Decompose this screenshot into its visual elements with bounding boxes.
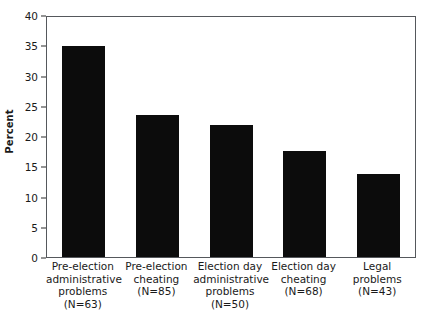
y-axis-tick-label: 30 [25,71,38,83]
y-axis-tick-label: 40 [25,10,38,22]
y-axis-tick-label: 25 [25,101,38,113]
x-axis-category-label-line: administrative [193,273,267,286]
x-axis-category-label: Pre-electionadministrativeproblems(N=63) [46,260,120,310]
y-axis-tick-label: 10 [25,192,38,204]
y-axis-title-text: Percent [4,109,15,153]
x-axis-category-label-line: (N=50) [193,298,267,311]
bar [210,125,253,257]
x-axis-category-label-line: administrative [46,273,120,286]
y-axis-title: Percent [0,0,18,262]
bar [283,151,326,257]
x-axis-category-label-line: (N=68) [267,285,341,298]
y-axis-tick-label: 15 [25,161,38,173]
x-axis-category-labels: Pre-electionadministrativeproblems(N=63)… [46,260,416,320]
y-axis-tick-label: 35 [25,40,38,52]
x-axis-category-label-line: cheating [120,273,194,286]
x-axis-category-label-line: (N=85) [120,285,194,298]
y-axis-tick-label: 0 [31,252,38,264]
x-axis-category-label-line: cheating [267,273,341,286]
x-axis-category-label-line: Election day [193,260,267,273]
bar-chart: Percent 0510152025303540 Pre-electionadm… [0,0,429,321]
x-axis-category-label-line: Election day [267,260,341,273]
x-axis-category-label: Pre-electioncheating(N=85) [120,260,194,298]
x-axis-category-label: Election dayadministrativeproblems(N=50) [193,260,267,310]
x-axis-category-label-line: Pre-election [46,260,120,273]
x-axis-category-label-line: Legal [340,260,414,273]
y-axis-tick-label: 20 [25,131,38,143]
x-axis-category-label: Legalproblems(N=43) [340,260,414,298]
bar [62,46,105,257]
plot-frame [46,16,416,258]
y-axis-tick-labels: 0510152025303540 [18,0,41,262]
bar [136,115,179,257]
plot-area [47,17,415,257]
x-axis-category-label-line: (N=43) [340,285,414,298]
x-axis-category-label-line: problems [340,273,414,286]
x-axis-category-label-line: problems [193,285,267,298]
y-axis-tick-label: 5 [31,222,38,234]
x-axis-category-label-line: Pre-election [120,260,194,273]
x-axis-category-label-line: problems [46,285,120,298]
x-axis-category-label: Election daycheating(N=68) [267,260,341,298]
x-axis-category-label-line: (N=63) [46,298,120,311]
bar [357,174,400,257]
